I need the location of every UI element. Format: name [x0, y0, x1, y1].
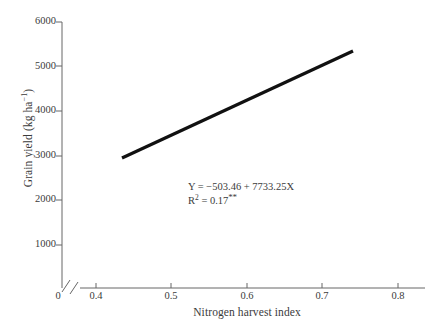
regression-equation: Y = −503.46 + 7733.25X	[188, 180, 294, 194]
r-squared-significance: **	[228, 192, 236, 202]
r-squared-prefix: R	[188, 195, 195, 206]
regression-annotation: Y = −503.46 + 7733.25X R2 = 0.17**	[188, 180, 294, 208]
axis-break-mark-1	[62, 280, 70, 292]
plot-area	[0, 0, 436, 331]
regression-line	[122, 51, 353, 158]
r-squared-value: = 0.17	[199, 195, 229, 206]
regression-chart: Grain yield (kg ha−1) Nitrogen harvest i…	[0, 0, 436, 331]
r-squared-line: R2 = 0.17**	[188, 194, 294, 208]
axis-break-mark-2	[70, 282, 78, 294]
